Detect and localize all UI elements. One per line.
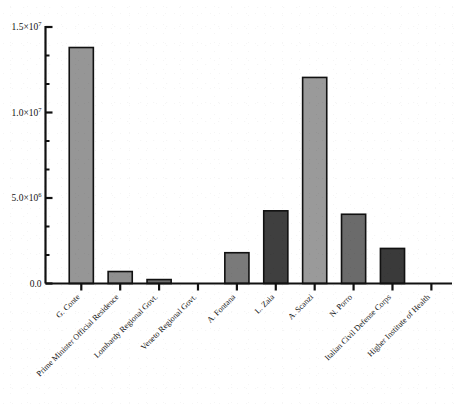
bar (342, 214, 366, 283)
y-tick-label: 1.0×107 (12, 106, 43, 118)
y-tick-label: 1.5×107 (12, 20, 43, 32)
bar-chart-figure: 0.05.0×1061.0×1071.5×107 G. ContePrime M… (0, 0, 458, 406)
chart-canvas: 0.05.0×1061.0×1071.5×107 G. ContePrime M… (0, 0, 458, 406)
y-tick-label: 0.0 (30, 279, 42, 289)
bar (225, 253, 249, 284)
bar (303, 77, 327, 283)
y-tick-label: 5.0×106 (12, 191, 43, 203)
bar (264, 211, 288, 284)
bar (69, 48, 93, 284)
bar (380, 248, 404, 283)
bar (108, 272, 132, 284)
